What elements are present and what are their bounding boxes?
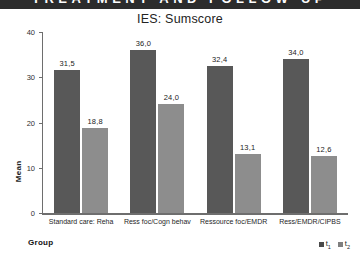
bar-t2-3[interactable]	[235, 154, 261, 213]
bar-value-label: 36,0	[123, 39, 163, 48]
bar-value-label: 34,0	[276, 48, 316, 57]
page-banner: TREATMENT AND FOLLOW-UP	[0, 0, 360, 9]
y-axis-tick-label: 0	[9, 209, 35, 218]
bar-value-label: 24,0	[151, 93, 191, 102]
y-axis-title: Mean	[14, 147, 23, 197]
bar-group: 32,413,1	[196, 32, 272, 213]
legend-label: t2	[345, 239, 350, 250]
y-axis-tick-label: 30	[9, 73, 35, 82]
y-axis-tick	[39, 213, 43, 214]
bar-value-label: 32,4	[200, 55, 240, 64]
bar-group: 34,012,6	[272, 32, 348, 213]
bar-t2-4[interactable]	[311, 156, 337, 213]
bar-value-label: 31,5	[47, 59, 87, 68]
chart-legend: t1t2	[319, 239, 350, 250]
bar-t1-1[interactable]	[54, 70, 80, 213]
bar-value-label: 18,8	[75, 117, 115, 126]
y-axis-tick-label: 40	[9, 28, 35, 37]
banner-title: TREATMENT AND FOLLOW-UP	[0, 0, 360, 7]
bar-t1-4[interactable]	[283, 59, 309, 213]
bar-t1-2[interactable]	[130, 50, 156, 213]
legend-item-t1[interactable]: t1	[319, 239, 331, 250]
legend-swatch-icon	[319, 242, 324, 247]
x-axis-title: Group	[28, 238, 54, 247]
bar-group: 36,024,0	[119, 32, 195, 213]
bar-t2-1[interactable]	[82, 128, 108, 213]
y-axis-tick-label: 20	[9, 119, 35, 128]
x-axis-line	[42, 213, 348, 215]
bar-value-label: 13,1	[228, 143, 268, 152]
bar-chart: IES: Sumscore 010203040 Mean 31,518,836,…	[0, 9, 360, 258]
bar-value-label: 12,6	[304, 145, 344, 154]
legend-label: t1	[326, 239, 331, 250]
bar-group: 31,518,8	[43, 32, 119, 213]
chart-title: IES: Sumscore	[0, 12, 360, 26]
bar-t2-2[interactable]	[158, 104, 184, 213]
x-axis-category-4: Ress/EMDR/CIPBS	[264, 218, 356, 225]
legend-item-t2[interactable]: t2	[338, 239, 350, 250]
bar-t1-3[interactable]	[207, 66, 233, 213]
plot-area: 31,518,836,024,032,413,134,012,6	[43, 32, 348, 213]
legend-swatch-icon	[338, 242, 343, 247]
